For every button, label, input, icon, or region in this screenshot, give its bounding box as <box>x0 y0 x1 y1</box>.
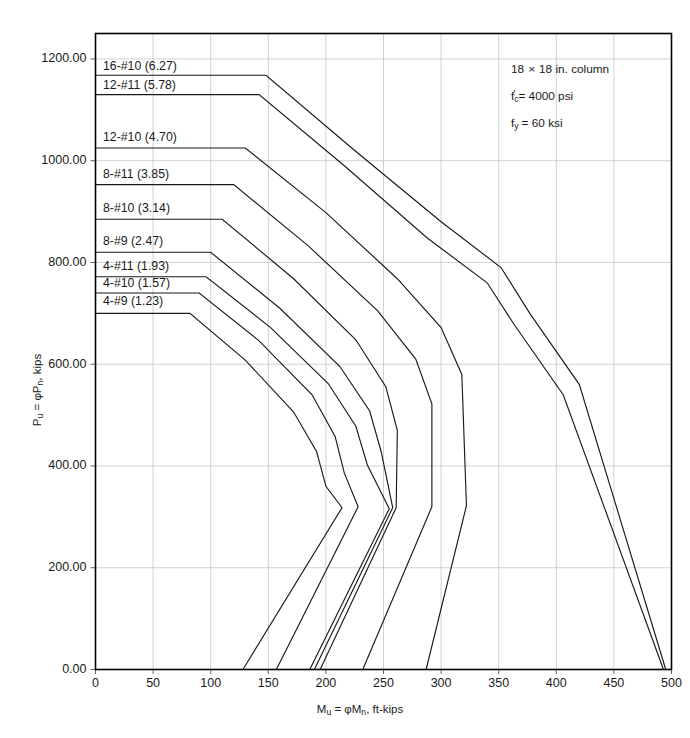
y-axis-title-unit: , kips <box>31 354 43 381</box>
series-label: 12-#10 (4.70) <box>103 130 177 144</box>
x-tick-label: 350 <box>488 676 509 690</box>
note-concrete-strength: fc'= 4000 psi <box>511 87 573 103</box>
interaction-diagram-chart: 0.00200.00400.00600.00800.001000.001200.… <box>0 0 690 738</box>
series-label: 4-#11 (1.93) <box>103 259 169 273</box>
series-label: 4-#9 (1.23) <box>103 294 163 308</box>
series-label: 12-#11 (5.78) <box>103 78 176 92</box>
x-tick-label: 150 <box>258 676 279 690</box>
x-tick-label: 500 <box>661 676 682 690</box>
series-label: 8-#11 (3.85) <box>103 167 169 181</box>
y-axis-title-eq: = <box>31 401 43 414</box>
x-tick-label: 50 <box>146 676 160 690</box>
x-tick-label: 250 <box>373 676 394 690</box>
x-axis-title-phi: φM <box>344 703 361 715</box>
x-tick-label: 300 <box>431 676 452 690</box>
x-axis-title-m: M <box>317 703 327 715</box>
y-tick-label: 1200.00 <box>41 51 86 65</box>
x-tick-label: 200 <box>315 676 336 690</box>
x-tick-label: 450 <box>603 676 624 690</box>
chart-background <box>0 0 690 738</box>
y-tick-label: 200.00 <box>48 560 86 574</box>
y-axis-title-phi: φP <box>31 385 43 400</box>
y-tick-label: 800.00 <box>48 255 86 269</box>
series-label: 8-#10 (3.14) <box>103 201 170 215</box>
x-tick-label: 100 <box>200 676 221 690</box>
y-tick-label: 0.00 <box>62 662 86 676</box>
series-label: 4-#10 (1.57) <box>103 276 170 290</box>
y-tick-label: 1000.00 <box>41 153 86 167</box>
y-tick-label: 400.00 <box>48 458 86 472</box>
series-label: 16-#10 (6.27) <box>103 59 177 73</box>
column-interaction-diagram-figure: 0.00200.00400.00600.00800.001000.001200.… <box>0 0 690 738</box>
series-label: 8-#9 (2.47) <box>103 234 163 248</box>
x-axis-title-eq: = <box>331 703 344 715</box>
x-tick-label: 0 <box>92 676 99 690</box>
x-tick-label: 400 <box>546 676 567 690</box>
y-tick-label: 600.00 <box>48 357 86 371</box>
x-axis-title-unit: , ft-kips <box>366 703 403 715</box>
